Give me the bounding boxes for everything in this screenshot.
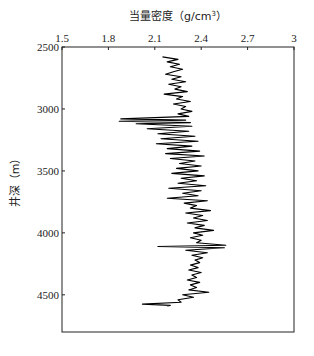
x-tick-label: 2.1 xyxy=(148,32,162,44)
x-axis-title: 当量密度（g/cm3） xyxy=(129,9,227,23)
y-tick-label: 4500 xyxy=(37,289,60,301)
y-axis-title: 井深（m） xyxy=(8,153,22,208)
x-tick-label: 3 xyxy=(291,32,297,44)
x-tick-label: 2.7 xyxy=(241,32,255,44)
density-trace-line xyxy=(119,57,226,306)
y-tick-label: 3500 xyxy=(37,165,60,177)
y-tick-label: 3000 xyxy=(37,103,60,115)
x-tick-label: 2.4 xyxy=(194,32,208,44)
y-tick-label: 4000 xyxy=(37,227,60,239)
density-depth-chart: 当量密度（g/cm3） 井深（m） 1.51.82.12.42.73 25003… xyxy=(0,0,314,356)
y-axis-ticks: 25003000350040004500 xyxy=(37,41,65,301)
y-tick-label: 2500 xyxy=(37,41,60,53)
x-tick-label: 1.8 xyxy=(102,32,116,44)
